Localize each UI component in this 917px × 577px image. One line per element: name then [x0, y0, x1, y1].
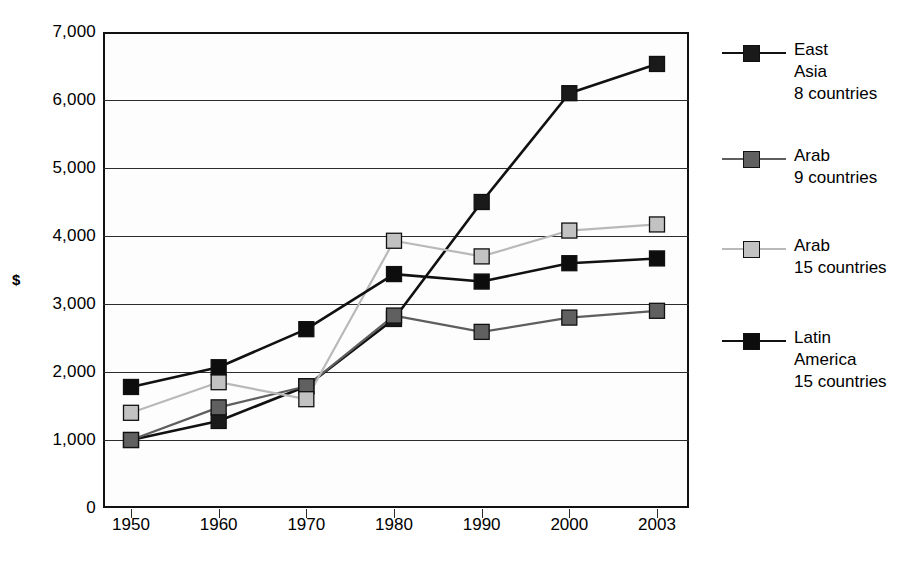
- x-axis-tick-label: 1980: [359, 516, 429, 534]
- legend-label-line-3: 15 countries: [794, 371, 914, 393]
- plot-area-frame: [103, 32, 689, 508]
- legend-label-line-1: Arab: [794, 145, 914, 167]
- legend-marker-sample: [722, 148, 786, 170]
- y-axis-tick-label: 7,000: [12, 23, 96, 40]
- x-axis-tick-label: 1970: [271, 516, 341, 534]
- legend-label: Arab9 countries: [794, 145, 914, 189]
- legend-marker-sample: [722, 238, 786, 260]
- legend-swatch: [743, 45, 760, 62]
- legend-marker-sample: [722, 330, 786, 352]
- y-axis-tick: 0: [8, 499, 96, 516]
- y-axis-title: $: [12, 272, 20, 287]
- gridline: [103, 440, 689, 441]
- legend-label-line-2: America: [794, 349, 914, 371]
- x-axis-tick-label: 1950: [96, 516, 166, 534]
- y-axis-tick: 3,000: [8, 295, 96, 312]
- legend-label-line-1: Latin: [794, 327, 914, 349]
- x-axis-tick-label: 1960: [184, 516, 254, 534]
- gridline: [103, 168, 689, 169]
- legend-label: EastAsia8 countries: [794, 39, 914, 105]
- gridline: [103, 100, 689, 101]
- legend-label-line-2: 9 countries: [794, 167, 914, 189]
- y-axis-tick: 5,000: [8, 159, 96, 176]
- legend-label: LatinAmerica15 countries: [794, 327, 914, 393]
- y-axis-tick: 6,000: [8, 91, 96, 108]
- y-axis-tick: 2,000: [8, 363, 96, 380]
- legend-label-line-1: East: [794, 39, 914, 61]
- y-axis-tick: 4,000: [8, 227, 96, 244]
- legend-label-line-1: Arab: [794, 235, 914, 257]
- y-axis-tick: 7,000: [8, 23, 96, 40]
- gridline: [103, 304, 689, 305]
- legend-label: Arab15 countries: [794, 235, 914, 279]
- legend-swatch: [743, 333, 760, 350]
- y-axis-tick-label: 2,000: [12, 363, 96, 380]
- chart-container: 7,0006,0005,0004,0003,0002,0001,0000 195…: [0, 0, 917, 577]
- y-axis-tick-label: 6,000: [12, 91, 96, 108]
- legend-label-line-3: 8 countries: [794, 83, 914, 105]
- y-axis-tick-label: 0: [12, 499, 96, 516]
- y-axis-tick-label: 5,000: [12, 159, 96, 176]
- legend-marker-sample: [722, 42, 786, 64]
- y-axis-tick-label: 3,000: [12, 295, 96, 312]
- x-axis-tick-label: 2000: [534, 516, 604, 534]
- gridline: [103, 236, 689, 237]
- x-axis-tick-label: 1990: [447, 516, 517, 534]
- gridline: [103, 372, 689, 373]
- legend-label-line-2: Asia: [794, 61, 914, 83]
- y-axis-tick: 1,000: [8, 431, 96, 448]
- legend-label-line-2: 15 countries: [794, 257, 914, 279]
- y-axis-tick-label: 4,000: [12, 227, 96, 244]
- x-axis-tick-label: 2003: [622, 516, 692, 534]
- y-axis-tick-label: 1,000: [12, 431, 96, 448]
- legend-swatch: [743, 151, 760, 168]
- legend-swatch: [743, 241, 760, 258]
